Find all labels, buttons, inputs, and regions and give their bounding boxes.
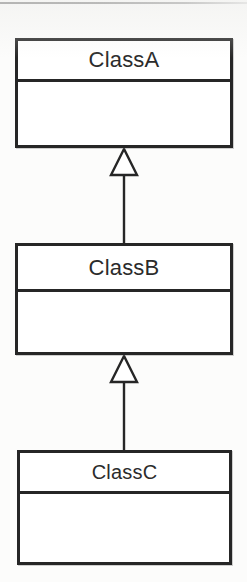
hollow-triangle-arrowhead-icon xyxy=(111,356,137,382)
class-name-compartment: ClassC xyxy=(20,453,229,494)
class-name-label: ClassA xyxy=(89,47,160,73)
class-name-label: ClassB xyxy=(89,255,160,281)
class-box-classb[interactable]: ClassB xyxy=(15,243,233,355)
generalization-b-to-a xyxy=(111,149,137,243)
class-name-label: ClassC xyxy=(92,461,158,484)
class-box-classc[interactable]: ClassC xyxy=(17,450,232,565)
generalization-c-to-b xyxy=(111,356,137,450)
class-attributes-compartment xyxy=(18,292,230,352)
class-name-compartment: ClassB xyxy=(18,246,230,292)
class-attributes-compartment xyxy=(20,494,229,562)
uml-class-diagram: ClassA ClassB ClassC xyxy=(0,0,247,582)
hollow-triangle-arrowhead-icon xyxy=(111,149,137,175)
scan-artifact-band xyxy=(0,2,247,4)
class-box-classa[interactable]: ClassA xyxy=(15,38,233,148)
class-name-compartment: ClassA xyxy=(18,41,230,82)
class-attributes-compartment xyxy=(18,82,230,145)
